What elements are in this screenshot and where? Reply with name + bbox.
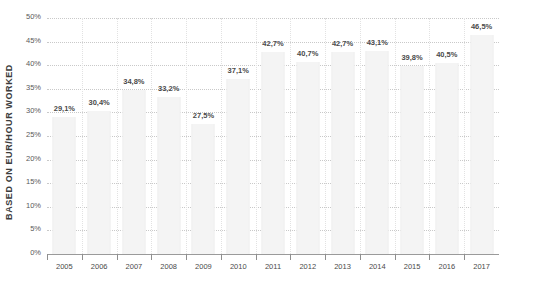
x-tick-label: 2007 <box>126 262 143 271</box>
bar-slot: 37,1% <box>221 18 256 254</box>
x-tick-mark <box>221 254 222 260</box>
y-tick-label: 45% <box>26 36 41 45</box>
y-tick-label: 0% <box>30 248 41 257</box>
bar[interactable] <box>261 52 284 254</box>
x-tick-label: 2016 <box>439 262 456 271</box>
bar-slot: 42,7% <box>325 18 360 254</box>
bar-value-label: 40,7% <box>297 49 318 58</box>
bar[interactable] <box>192 124 215 254</box>
y-tick-label: 15% <box>26 177 41 186</box>
bar-slot: 30,4% <box>82 18 117 254</box>
x-tick-label: 2010 <box>230 262 247 271</box>
bar-value-label: 43,1% <box>367 38 388 47</box>
x-tick-label: 2009 <box>195 262 212 271</box>
bar-slot: 40,7% <box>290 18 325 254</box>
x-tick-mark <box>290 254 291 260</box>
x-axis: 2005200620072008200920102011201220132014… <box>47 254 499 284</box>
bar-slot: 34,8% <box>117 18 152 254</box>
bar-value-label: 34,8% <box>123 77 144 86</box>
y-tick-label: 30% <box>26 106 41 115</box>
bar[interactable] <box>88 111 111 254</box>
bar-value-label: 27,5% <box>193 111 214 120</box>
x-tick-label: 2012 <box>299 262 316 271</box>
y-axis-title: BASED ON EUR/HOUR WORKED <box>0 0 18 284</box>
bar-series: 29,1%30,4%34,8%33,2%27,5%37,1%42,7%40,7%… <box>47 18 499 254</box>
bar-value-label: 29,1% <box>54 104 75 113</box>
chart-figure: BASED ON EUR/HOUR WORKED 50%45%40%35%30%… <box>0 0 539 284</box>
bar[interactable] <box>401 66 424 254</box>
x-tick-mark <box>395 254 396 260</box>
x-tick-mark <box>464 254 465 260</box>
x-tick-mark <box>186 254 187 260</box>
plot-area: 50%45%40%35%30%25%20%15%10%5%0% 29,1%30,… <box>47 18 499 254</box>
x-tick-label: 2014 <box>369 262 386 271</box>
bar-value-label: 37,1% <box>228 66 249 75</box>
bar[interactable] <box>157 97 180 254</box>
bar[interactable] <box>331 52 354 254</box>
bar-slot: 46,5% <box>464 18 499 254</box>
x-tick-label: 2008 <box>160 262 177 271</box>
bar-value-label: 42,7% <box>262 39 283 48</box>
x-tick-label: 2013 <box>334 262 351 271</box>
x-tick-label: 2005 <box>56 262 73 271</box>
x-tick-mark <box>47 254 48 260</box>
x-tick-mark <box>429 254 430 260</box>
bar-slot: 43,1% <box>360 18 395 254</box>
x-tick-label: 2006 <box>91 262 108 271</box>
y-tick-label: 20% <box>26 154 41 163</box>
bar-slot: 27,5% <box>186 18 221 254</box>
bar-slot: 42,7% <box>256 18 291 254</box>
bar-slot: 40,5% <box>429 18 464 254</box>
x-tick-mark <box>117 254 118 260</box>
bar[interactable] <box>53 117 76 254</box>
bar-value-label: 42,7% <box>332 39 353 48</box>
bar-value-label: 33,2% <box>158 84 179 93</box>
x-tick-label: 2017 <box>473 262 490 271</box>
bar-slot: 33,2% <box>151 18 186 254</box>
bar[interactable] <box>470 35 493 254</box>
bar-value-label: 46,5% <box>471 22 492 31</box>
y-tick-label: 35% <box>26 83 41 92</box>
x-tick-mark <box>82 254 83 260</box>
x-tick-mark <box>325 254 326 260</box>
bar-value-label: 40,5% <box>436 50 457 59</box>
bar[interactable] <box>366 51 389 254</box>
y-tick-label: 5% <box>30 224 41 233</box>
x-tick-label: 2015 <box>404 262 421 271</box>
bar-value-label: 30,4% <box>89 98 110 107</box>
bar[interactable] <box>122 90 145 254</box>
y-tick-label: 50% <box>26 12 41 21</box>
x-tick-mark <box>360 254 361 260</box>
bar-slot: 29,1% <box>47 18 82 254</box>
bar-slot: 39,8% <box>395 18 430 254</box>
bar[interactable] <box>435 63 458 254</box>
bar[interactable] <box>227 79 250 254</box>
y-tick-label: 40% <box>26 59 41 68</box>
x-tick-mark <box>151 254 152 260</box>
bar[interactable] <box>296 62 319 254</box>
x-tick-label: 2011 <box>265 262 281 271</box>
bar-value-label: 39,8% <box>401 53 422 62</box>
y-tick-label: 25% <box>26 130 41 139</box>
y-tick-label: 10% <box>26 201 41 210</box>
x-tick-mark <box>256 254 257 260</box>
